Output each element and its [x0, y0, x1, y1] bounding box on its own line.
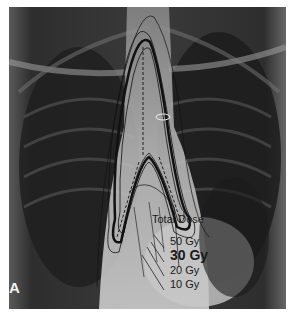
legend-item-50gy: 50 Gy: [170, 235, 199, 247]
xray-dose-overlay: [9, 7, 286, 309]
panel-label: A: [9, 279, 20, 296]
legend-title: Total Dose: [152, 213, 204, 225]
legend-item-30gy: 30 Gy: [170, 247, 208, 263]
chest-xray-figure: [9, 7, 286, 309]
legend-item-20gy: 20 Gy: [170, 264, 199, 276]
legend-item-10gy: 10 Gy: [170, 278, 199, 290]
